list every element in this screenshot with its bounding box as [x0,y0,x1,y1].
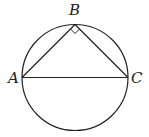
diagram-canvas [0,0,149,137]
side-bc [75,25,128,78]
right-angle-marker [71,29,80,34]
point-label-b: B [69,3,80,18]
side-ab [22,25,75,78]
point-label-c: C [131,71,142,86]
point-label-a: A [8,71,19,86]
geometry-diagram: B A C [0,0,149,137]
